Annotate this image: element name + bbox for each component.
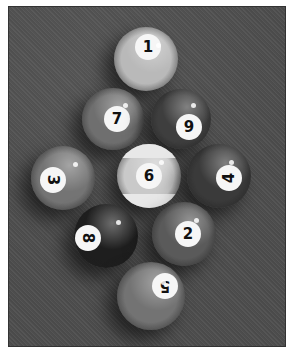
ball-number-spot: 2 bbox=[175, 221, 201, 247]
billiard-ball-1: 1 bbox=[114, 27, 178, 91]
ball-number-spot: 5 bbox=[152, 273, 178, 299]
ball-number-spot: 8 bbox=[75, 225, 101, 251]
ball-highlight bbox=[73, 162, 78, 167]
ball-number-spot: 3 bbox=[40, 167, 66, 193]
billiard-ball-2: 2 bbox=[152, 202, 216, 266]
ball-highlight bbox=[159, 160, 164, 165]
billiard-ball-3: 3 bbox=[31, 146, 95, 210]
billiard-ball-5: 5 bbox=[117, 262, 185, 330]
ball-highlight bbox=[123, 103, 128, 108]
ball-white-cap bbox=[117, 144, 181, 158]
ball-highlight bbox=[156, 43, 161, 48]
ball-highlight bbox=[194, 218, 199, 223]
ball-number-spot: 4 bbox=[216, 165, 242, 191]
ball-highlight bbox=[191, 103, 196, 108]
ball-highlight bbox=[161, 280, 166, 285]
ball-number-spot: 9 bbox=[176, 114, 202, 140]
ball-highlight bbox=[116, 220, 121, 225]
billiard-ball-7: 7 bbox=[82, 88, 144, 150]
billiard-ball-6: 6 bbox=[117, 144, 181, 208]
ball-number-spot: 7 bbox=[104, 106, 130, 132]
billiard-ball-8: 8 bbox=[74, 204, 138, 268]
ball-highlight bbox=[229, 160, 234, 165]
ball-number-spot: 6 bbox=[136, 163, 162, 189]
billiard-ball-9: 9 bbox=[151, 89, 211, 149]
billiard-ball-4: 4 bbox=[187, 144, 251, 208]
billiard-photo: 179364825 bbox=[8, 6, 286, 347]
